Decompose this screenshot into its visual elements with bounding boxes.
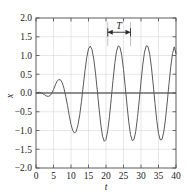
y-tick-label: −0.5 <box>15 107 32 117</box>
x-tick-label: 0 <box>34 171 39 181</box>
y-tick-label: −1.5 <box>15 145 32 155</box>
y-tick-label: −2.0 <box>15 163 32 173</box>
x-tick-label: 35 <box>154 171 164 181</box>
y-axis-title: x <box>5 93 15 99</box>
y-tick-label: 2.0 <box>20 13 32 23</box>
x-tick-label: 20 <box>101 171 111 181</box>
y-tick-label: 0.5 <box>20 70 32 80</box>
x-tick-label: 15 <box>84 171 94 181</box>
x-tick-label: 10 <box>66 171 76 181</box>
x-axis-title: t <box>105 182 108 192</box>
y-axis-tick-labels: −2.0−1.5−1.0−0.50.00.51.01.52.0 <box>15 13 32 173</box>
x-axis-tick-labels: 0510152025303540 <box>34 171 181 181</box>
y-tick-label: 0.0 <box>20 88 32 98</box>
y-tick-label: 1.5 <box>20 32 32 42</box>
y-tick-label: 1.0 <box>20 51 32 61</box>
x-tick-label: 40 <box>171 171 181 181</box>
y-tick-label: −1.0 <box>15 126 32 136</box>
x-tick-label: 5 <box>51 171 56 181</box>
x-tick-label: 30 <box>136 171 146 181</box>
x-tick-label: 25 <box>119 171 129 181</box>
chart-figure: −2.0−1.5−1.0−0.50.00.51.01.52.0 05101520… <box>0 0 187 194</box>
oscillation-line-chart: −2.0−1.5−1.0−0.50.00.51.01.52.0 05101520… <box>0 0 187 194</box>
